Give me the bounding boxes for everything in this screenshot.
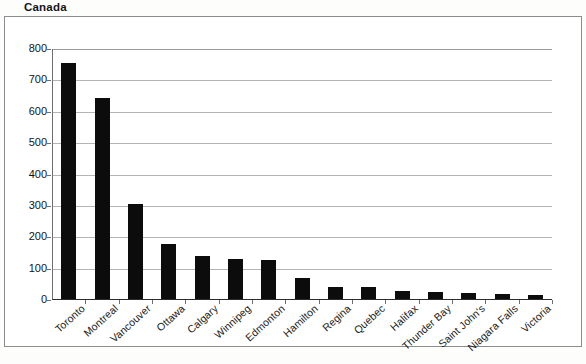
x-axis-tick-label: Hamilton — [281, 302, 320, 339]
x-axis-tick-label-text: Regina — [320, 302, 353, 334]
y-axis-tickmark — [47, 175, 51, 176]
y-axis-labels: 0100200300400500600700800 — [5, 49, 47, 300]
page-title: Canada — [24, 1, 67, 13]
y-axis-tick-label: 100 — [7, 262, 47, 274]
x-axis-tick-label: Victoria — [519, 302, 554, 335]
x-axis-tick-label: Ottawa — [153, 302, 186, 334]
y-axis-tick-label: 600 — [7, 105, 47, 117]
x-axis-tick-label: Regina — [320, 302, 353, 334]
x-axis-tick-label: Quebec — [351, 302, 387, 336]
axis-box — [52, 49, 552, 300]
x-axis-tick-label-text: Victoria — [519, 302, 554, 335]
y-axis-tick-label: 800 — [7, 42, 47, 54]
y-axis-tickmark — [47, 49, 51, 50]
y-axis-tickmark — [47, 80, 51, 81]
y-axis-tickmark — [47, 237, 51, 238]
chart-page: Canada 0100200300400500600700800 Toronto… — [0, 0, 586, 364]
y-axis-tickmark — [47, 300, 51, 301]
scan-artifact-text — [60, 352, 530, 362]
chart-frame: 0100200300400500600700800 TorontoMontrea… — [4, 16, 582, 347]
x-axis-tick-label-text: Quebec — [351, 302, 387, 336]
y-axis-tick-label: 0 — [7, 293, 47, 305]
y-axis-tick-label: 300 — [7, 199, 47, 211]
plot-area — [52, 49, 552, 300]
y-axis-tickmark — [47, 206, 51, 207]
y-axis-tickmark — [47, 143, 51, 144]
y-axis-tick-label: 500 — [7, 136, 47, 148]
y-axis-tickmark — [47, 269, 51, 270]
x-axis-tick-label-text: Ottawa — [153, 302, 186, 334]
y-axis-tick-label: 200 — [7, 230, 47, 242]
y-axis-tick-label: 700 — [7, 73, 47, 85]
x-axis-tick-label-text: Hamilton — [281, 302, 320, 339]
y-axis-tickmark — [47, 112, 51, 113]
y-axis-tick-label: 400 — [7, 168, 47, 180]
